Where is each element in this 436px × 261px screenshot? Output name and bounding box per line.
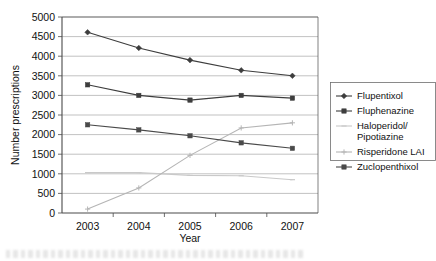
- y-tick-label: 2500: [32, 109, 56, 121]
- y-tick-label: 3500: [32, 70, 56, 82]
- y-tick-label: 1500: [32, 148, 56, 160]
- data-point-marker: [239, 141, 243, 145]
- legend-label: Risperidone LAI: [357, 146, 425, 157]
- y-tick-label: 2000: [32, 128, 56, 140]
- legend-label: Haloperidol/: [357, 120, 408, 131]
- legend-entry: Zuclopenthixol: [336, 161, 418, 172]
- y-tick-label: 1000: [32, 168, 56, 180]
- x-tick-label: 2003: [76, 220, 100, 232]
- data-point-marker: [342, 109, 346, 113]
- y-tick-label: 5000: [32, 11, 56, 23]
- y-tick-label: 0: [49, 207, 55, 219]
- y-tick-label: 500: [37, 187, 55, 199]
- data-point-marker: [290, 146, 294, 150]
- y-tick-label: 4000: [32, 50, 56, 62]
- legend-label: Pipotiazine: [357, 131, 403, 142]
- legend-label: Flupentixol: [357, 90, 403, 101]
- x-tick-label: 2004: [127, 220, 151, 232]
- data-point-marker: [85, 123, 89, 127]
- legend-label: Fluphenazine: [357, 105, 414, 116]
- data-point-marker: [85, 83, 89, 87]
- data-point-marker: [137, 128, 141, 132]
- x-tick-label: 2005: [178, 220, 202, 232]
- figure-container: 0500100015002000250030003500400045005000…: [0, 0, 436, 261]
- x-tick-label: 2007: [281, 220, 305, 232]
- prescriptions-line-chart: 0500100015002000250030003500400045005000…: [0, 0, 436, 261]
- chart-legend: FlupentixolFluphenazineHaloperidol/Pipot…: [331, 83, 436, 173]
- legend-label: Zuclopenthixol: [357, 161, 418, 172]
- data-point-marker: [137, 93, 141, 97]
- y-axis-ticks: [58, 17, 62, 213]
- y-tick-label: 4500: [32, 30, 56, 42]
- y-axis-tick-labels: 0500100015002000250030003500400045005000: [32, 11, 56, 219]
- y-tick-label: 3000: [32, 89, 56, 101]
- y-axis-title: Number prescriptions: [9, 65, 21, 165]
- data-point-marker: [290, 96, 294, 100]
- x-tick-label: 2006: [230, 220, 254, 232]
- data-point-marker: [239, 93, 243, 97]
- x-axis-tick-labels: 20032004200520062007: [76, 220, 304, 232]
- x-axis-ticks: [113, 213, 267, 217]
- data-point-marker: [188, 134, 192, 138]
- data-point-marker: [188, 98, 192, 102]
- figure-caption-fragment: [6, 250, 306, 258]
- data-point-marker: [342, 165, 346, 169]
- x-axis-title: Year: [179, 232, 201, 244]
